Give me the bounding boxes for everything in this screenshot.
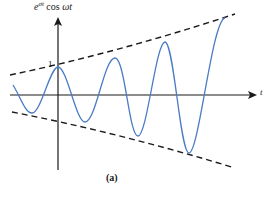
- y-label-argument: ωt: [62, 1, 72, 12]
- upper-envelope: [10, 14, 235, 75]
- x-axis-label: t: [260, 87, 263, 97]
- y-label-function: cos: [46, 1, 59, 12]
- oscillation-diagram: eσt cos ωt 1 t (a): [0, 0, 268, 197]
- y-axis-label: eσt cos ωt: [34, 0, 72, 12]
- oscillation-curve: [13, 18, 225, 153]
- figure-caption: (a): [106, 172, 118, 183]
- plot-canvas: [0, 0, 268, 197]
- lower-envelope: [12, 112, 235, 168]
- tick-label-one: 1: [48, 59, 53, 69]
- y-label-exponent: σt: [38, 0, 43, 8]
